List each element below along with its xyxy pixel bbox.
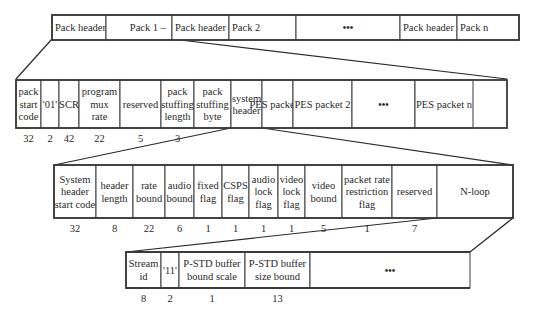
bit-count: 22 — [94, 133, 105, 144]
bit-count: 5 — [138, 133, 143, 144]
field-label: video — [280, 174, 303, 185]
row1-field-pack-header: Pack header — [172, 15, 229, 40]
field-label: System — [60, 174, 91, 185]
field-label: bound — [136, 193, 163, 204]
row3-field-header-length: headerlength8 — [96, 165, 133, 234]
field-label: pack — [168, 86, 189, 97]
field-box — [194, 165, 222, 218]
field-label: lock — [254, 186, 273, 197]
field-label: restriction — [346, 186, 389, 197]
ellipsis-icon: ••• — [343, 22, 354, 33]
row3-field-rate-bound: ratebound22 — [133, 165, 165, 234]
system-header-fields-row: Systemheaderstart code32headerlength8rat… — [54, 165, 513, 234]
field-label: pack — [19, 86, 40, 97]
bit-count: 1 — [209, 293, 214, 304]
bit-count: 2 — [167, 293, 172, 304]
row3-field-csps-flag: CSPSflag1 — [222, 165, 249, 234]
field-label: header — [101, 180, 129, 191]
connector-system-header-right — [262, 128, 513, 165]
field-label: Pack n — [460, 22, 489, 33]
field-label: P-STD buffer — [183, 258, 241, 269]
row2-field-pack-stuffing-length: packstuffinglength3 — [161, 80, 194, 144]
bit-count: 1 — [289, 223, 294, 234]
field-box — [305, 165, 342, 218]
bit-count: 6 — [177, 223, 182, 234]
bit-count: 1 — [364, 223, 369, 234]
field-label: reserved — [123, 99, 159, 110]
field-box — [133, 165, 165, 218]
row2-field-pes-packet-2: PES packet 2 — [293, 80, 352, 128]
row1-field-pack-header: Pack header — [400, 15, 457, 40]
bit-count: 2 — [47, 133, 52, 144]
row2-field-pack-stuffing-byte: packstuffingbyte — [194, 80, 231, 128]
field-label: bound scale — [187, 271, 237, 282]
field-label: rate — [92, 111, 108, 122]
field-label: lock — [282, 186, 301, 197]
row2-field-reserved: reserved5 — [120, 80, 161, 144]
field-label: header — [61, 186, 89, 197]
field-label: Stream — [129, 258, 159, 269]
row4-field-ellipsis: ••• — [310, 252, 470, 288]
row3-field-video-bound: videobound5 — [305, 165, 342, 234]
field-label: length — [164, 111, 191, 122]
field-label: flag — [200, 193, 217, 204]
field-label: audio — [168, 180, 191, 191]
field-label: packet rate — [344, 174, 390, 185]
row1-field-pack-header: Pack header — [52, 15, 107, 40]
row4-field-stream-id: Streamid8 — [126, 252, 161, 304]
bit-count: 8 — [112, 223, 117, 234]
row2-field-scr: SCR42 — [59, 80, 79, 144]
n-loop-fields-row: Streamid8'11'2P-STD bufferbound scale1P-… — [126, 252, 470, 304]
field-label: start — [19, 99, 37, 110]
field-label: flag — [227, 193, 244, 204]
field-box — [222, 165, 249, 218]
row1-field-ellipsis: ••• — [296, 15, 400, 40]
field-box — [96, 165, 133, 218]
field-label: stuffing — [161, 99, 194, 110]
field-label: size bound — [255, 271, 301, 282]
field-label: '11' — [163, 265, 177, 276]
field-label: Pack header — [175, 22, 227, 33]
field-label: pack — [203, 86, 224, 97]
connector-pack-header-right — [172, 39, 507, 79]
field-label: Pack header — [403, 22, 455, 33]
field-label: mux — [90, 99, 109, 110]
field-label: video — [312, 180, 335, 191]
row2-field-01: '01'2 — [41, 80, 59, 144]
field-label: rate — [141, 180, 157, 191]
row4-field-11: '11'2 — [161, 252, 179, 304]
bit-count: 13 — [272, 293, 283, 304]
field-label: stuffing — [196, 99, 229, 110]
bit-count: 22 — [144, 223, 155, 234]
row1-field-pack-2: Pack 2 — [229, 15, 296, 40]
field-label: Pack 1 – — [130, 22, 167, 33]
field-label: PES packet 2 — [295, 99, 351, 110]
row4-field-p-std-buffer-size-bound: P-STD buffersize bound13 — [245, 252, 310, 304]
connector-nloop-right — [470, 218, 513, 252]
row3-field-reserved: reserved7 — [392, 165, 437, 234]
row3-field-video-lock-flag: videolockflag1 — [278, 165, 305, 234]
field-label: CSPS — [223, 180, 248, 191]
row3-field-n-loop: N-loop — [437, 165, 513, 218]
row3-field-audio-lock-flag: audiolockflag1 — [249, 165, 278, 234]
field-label: start code — [55, 199, 96, 210]
field-label: flag — [359, 199, 376, 210]
pack-structure-diagram: Pack headerPack 1 –Pack headerPack 2•••P… — [0, 0, 535, 317]
field-label: bound — [166, 193, 193, 204]
row2-field-pack-start-code: packstartcode32 — [16, 80, 41, 144]
row1-field-pack-1: Pack 1 – — [106, 15, 172, 40]
field-box — [165, 165, 194, 218]
field-label: flag — [283, 199, 300, 210]
ellipsis-icon: ••• — [385, 265, 396, 276]
field-label: flag — [255, 199, 272, 210]
bit-count: 1 — [233, 223, 238, 234]
row2-field-pes-packet-n: PES packet n — [415, 80, 473, 128]
bit-count: 7 — [412, 223, 417, 234]
bit-count: 1 — [261, 223, 266, 234]
bit-count: 32 — [23, 133, 34, 144]
bit-count: 32 — [70, 223, 81, 234]
field-label: Pack 2 — [232, 22, 260, 33]
pack-header-fields-row: packstartcode32'01'2SCR42programmuxrate2… — [16, 80, 507, 144]
field-label: P-STD buffer — [249, 258, 307, 269]
field-label: PES packet n — [416, 99, 473, 110]
